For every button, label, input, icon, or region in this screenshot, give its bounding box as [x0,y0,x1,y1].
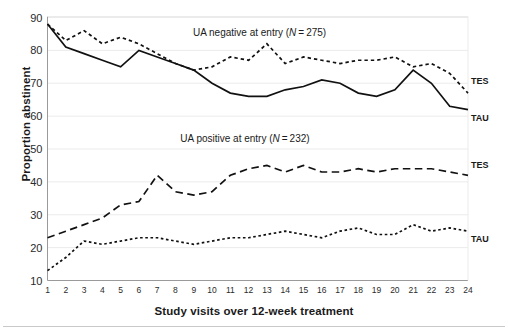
x-tick-label: 21 [408,285,418,295]
x-tick-label: 20 [390,285,400,295]
x-tick-label: 8 [173,285,178,295]
y-tick-label: 60 [30,110,42,122]
chart-svg: 908070605040302010 123456789101112131415… [0,0,508,334]
x-tick-label: 14 [280,285,290,295]
series-label-tes: TES [471,160,489,170]
x-tick-label: 15 [299,285,309,295]
group-annotation: UA negative at entry (N = 275) [193,27,326,38]
y-tick-label: 70 [30,77,42,89]
x-tick-label: 17 [335,285,345,295]
x-tick-label: 3 [82,285,87,295]
series-label-tau: TAU [471,234,489,244]
series-label-tes: TES [471,76,489,86]
axis-lines [3,17,505,327]
y-tick-label: 40 [30,176,42,188]
x-tick-label: 10 [207,285,217,295]
x-tick-label: 9 [191,285,196,295]
y-tick-label: 30 [30,209,42,221]
y-tick-label: 90 [30,12,42,24]
y-tick-label: 50 [30,143,42,155]
y-tick-label: 80 [30,44,42,56]
x-tick-label: 19 [372,285,382,295]
x-tick-labels: 123456789101112131415161718192021222324 [45,285,473,295]
y-tick-labels: 908070605040302010 [30,12,42,287]
plot-area: 908070605040302010 123456789101112131415… [0,0,508,334]
x-tick-label: 11 [226,285,235,295]
series-line-tes [48,165,469,237]
group-annotation: UA positive at entry (N = 232) [180,133,309,144]
x-tick-label: 1 [45,285,50,295]
x-tick-label: 2 [63,285,68,295]
series-label-tau: TAU [471,113,489,123]
x-tick-label: 7 [155,285,160,295]
x-tick-label: 12 [244,285,254,295]
chart-figure: Proportion abstinent Study visits over 1… [0,0,508,334]
x-tick-label: 23 [445,285,455,295]
x-tick-label: 24 [463,285,473,295]
series-labels: TESTAUTESTAU [471,76,489,244]
y-tick-label: 10 [30,275,42,287]
x-tick-label: 13 [262,285,272,295]
data-lines [48,24,469,271]
x-tick-label: 18 [354,285,364,295]
gridlines [48,18,469,281]
x-tick-label: 22 [427,285,437,295]
y-tick-label: 20 [30,242,42,254]
x-tick-label: 16 [317,285,327,295]
x-tick-label: 6 [137,285,142,295]
x-tick-label: 4 [100,285,105,295]
x-tick-label: 5 [118,285,123,295]
